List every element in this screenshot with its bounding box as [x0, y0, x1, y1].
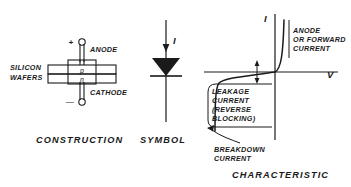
forward-label-line2: OR FORWARD	[293, 35, 346, 44]
leakage-label-line1: LEAKAGE	[212, 87, 249, 96]
breakdown-label-line2: CURRENT	[214, 154, 252, 163]
voltage-axis-label: V	[327, 69, 334, 80]
minus-sign-label: —	[65, 97, 75, 106]
characteristic-caption: CHARACTERISTIC	[232, 170, 329, 180]
breakdown-label-line1: BREAKDOWN	[214, 145, 266, 154]
silicon-wafers-label-line2: WAFERS	[10, 73, 43, 82]
symbol-group: I SYMBOL	[140, 20, 186, 145]
forward-label-line1: ANODE	[292, 26, 320, 35]
construction-group: p n + — ANODE CATHODE SILICON WAFERS CON…	[10, 38, 127, 145]
current-direction-arrow	[163, 44, 170, 52]
figure-canvas: p n + — ANODE CATHODE SILICON WAFERS CON…	[0, 0, 351, 187]
leakage-label-line3: (REVERSE	[212, 105, 251, 114]
p-layer-label: p	[79, 67, 84, 75]
n-layer-label: n	[80, 76, 84, 83]
characteristic-group: I V LEAKAGE CURRENT (REVERSE BLOCKING) A…	[204, 13, 346, 180]
leakage-label-line4: BLOCKING)	[212, 114, 256, 123]
symbol-current-label: I	[173, 35, 176, 46]
anode-lead	[79, 39, 85, 62]
breakdown-leader-line	[212, 130, 240, 143]
plus-sign-label: +	[69, 38, 74, 47]
construction-caption: CONSTRUCTION	[36, 135, 123, 145]
cathode-lead	[79, 82, 85, 105]
forward-label-line3: CURRENT	[293, 44, 331, 53]
leakage-label-line2: CURRENT	[212, 96, 250, 105]
anode-label: ANODE	[89, 45, 117, 54]
symbol-caption: SYMBOL	[140, 135, 186, 145]
diode-figure: p n + — ANODE CATHODE SILICON WAFERS CON…	[0, 0, 351, 187]
silicon-wafers-label-line1: SILICON	[10, 63, 42, 72]
current-axis-label: I	[264, 13, 267, 24]
diode-triangle	[152, 58, 180, 76]
cathode-label: CATHODE	[90, 88, 127, 97]
